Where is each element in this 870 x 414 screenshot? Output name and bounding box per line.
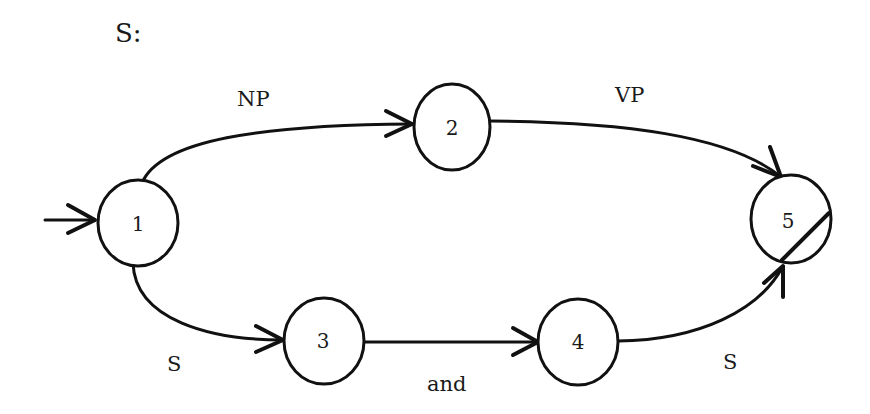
diagram-title: S: xyxy=(115,18,142,48)
edge-1-to-3: S xyxy=(133,263,283,376)
edge-label-s-lower-left: S xyxy=(167,352,181,376)
start-arrow-icon xyxy=(45,205,95,233)
node-label-1: 1 xyxy=(132,212,145,236)
state-node-2: 2 xyxy=(414,84,490,170)
state-node-3: 3 xyxy=(284,298,364,384)
edge-4-to-5: S xyxy=(618,266,783,374)
state-node-5-final: 5 xyxy=(751,175,831,263)
edge-label-np: NP xyxy=(237,87,270,111)
node-label-2: 2 xyxy=(446,116,459,140)
edge-label-vp: VP xyxy=(614,83,644,107)
edge-label-s-lower-right: S xyxy=(723,350,737,374)
transition-network-diagram: S: NP VP S and S 1 2 xyxy=(0,0,870,414)
state-node-1: 1 xyxy=(98,180,178,266)
edge-1-to-2: NP xyxy=(142,87,412,183)
node-label-4: 4 xyxy=(572,330,585,354)
edge-2-to-5: VP xyxy=(490,83,781,177)
edge-3-to-4: and xyxy=(364,328,538,396)
node-label-3: 3 xyxy=(317,329,330,353)
node-label-5: 5 xyxy=(782,209,795,233)
edge-label-and: and xyxy=(427,372,467,396)
state-node-4: 4 xyxy=(538,299,618,385)
